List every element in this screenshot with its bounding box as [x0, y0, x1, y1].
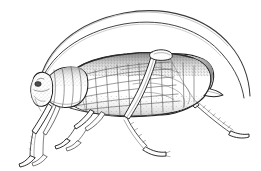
insect-illustration-canvas: Cricket / katydid lateral line drawing [0, 0, 261, 171]
compound-eye-icon [35, 82, 41, 87]
insect-illustration: Cricket / katydid lateral line drawing [0, 0, 261, 171]
hindleg-knee-apex [150, 50, 173, 61]
